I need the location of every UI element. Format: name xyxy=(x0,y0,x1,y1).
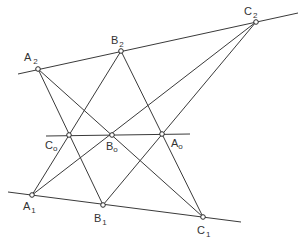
point-A2 xyxy=(36,67,41,72)
pappus-diagram: A2 B2 C2 Co Bo Ao A1 B1 C1 xyxy=(0,0,300,244)
point-A1 xyxy=(30,193,35,198)
line-C2-A1 xyxy=(32,22,256,195)
label-A2: A2 xyxy=(24,51,38,66)
label-B2: B2 xyxy=(111,34,124,49)
line-bottom xyxy=(8,192,241,222)
point-C1 xyxy=(201,215,206,220)
label-B0: Bo xyxy=(106,140,118,154)
point-B1 xyxy=(101,203,106,208)
label-C1: C1 xyxy=(197,224,211,239)
label-A0: Ao xyxy=(171,137,183,151)
point-A0 xyxy=(160,132,165,137)
point-C2 xyxy=(254,20,259,25)
point-C0 xyxy=(67,133,72,138)
label-C0: Co xyxy=(45,139,58,153)
label-C2: C2 xyxy=(244,5,258,20)
line-B2-A1 xyxy=(32,51,121,195)
label-A1: A1 xyxy=(23,200,36,215)
line-C2-B1 xyxy=(103,22,256,205)
point-B2 xyxy=(119,49,124,54)
label-B1: B1 xyxy=(94,212,107,227)
point-B0 xyxy=(110,133,115,138)
